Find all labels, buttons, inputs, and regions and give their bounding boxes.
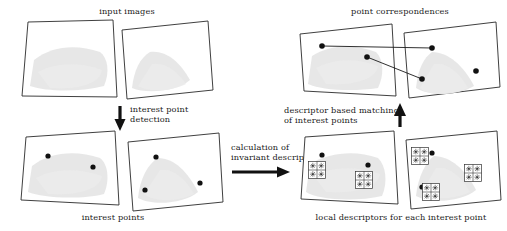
caption-input-images: input images (99, 6, 155, 16)
interest-point (319, 43, 325, 49)
quad-correspondence-right (404, 22, 500, 98)
quad-input-left (22, 20, 117, 97)
arrow-label-matching-line2: of interest points (284, 115, 358, 125)
quad-input-right (122, 21, 213, 99)
arrow-interest-point-detection: interest point detection (115, 104, 189, 131)
arrow-label-detection-line1: interest point (130, 104, 189, 114)
arrow-label-calculation-line1: calculation of (231, 142, 290, 152)
interest-point (153, 154, 158, 159)
interest-point (365, 162, 370, 167)
interest-point (319, 152, 324, 157)
quad-descriptor-left (301, 131, 398, 204)
interest-point (142, 187, 147, 192)
descriptor-patch (423, 184, 440, 201)
quad-descriptor-right (406, 131, 501, 209)
panel-local-descriptors: local descriptors for each interest poin… (301, 131, 501, 222)
descriptor-patch (356, 172, 373, 189)
quad-interest-left (21, 131, 119, 205)
arrow-descriptor-matching: descriptor based matching of interest po… (284, 103, 406, 127)
interest-point (429, 45, 435, 51)
quad-correspondence-left (300, 24, 396, 96)
panel-input-images: input images (22, 6, 213, 99)
interest-point (45, 153, 50, 158)
caption-point-correspondences: point correspondences (351, 6, 449, 16)
interest-point (473, 68, 479, 74)
descriptor-patch (309, 162, 326, 179)
panel-interest-points: interest points (21, 131, 223, 222)
panel-point-correspondences: point correspondences (300, 6, 500, 98)
caption-interest-points: interest points (82, 212, 145, 222)
interest-point (90, 164, 95, 169)
arrow-label-matching-line1: descriptor based matching (284, 105, 399, 115)
arrow-label-detection-line2: detection (130, 114, 171, 124)
interest-point (197, 180, 202, 185)
quad-interest-right (128, 133, 223, 211)
interest-point (364, 54, 370, 60)
descriptor-patch (412, 148, 429, 165)
interest-point (419, 76, 425, 82)
caption-local-descriptors: local descriptors for each interest poin… (316, 212, 487, 222)
descriptor-patch (465, 165, 482, 182)
interest-point (429, 150, 434, 155)
diagram-canvas: input images interest point detection (0, 0, 507, 231)
feature-pipeline-figure: input images interest point detection (0, 0, 507, 231)
